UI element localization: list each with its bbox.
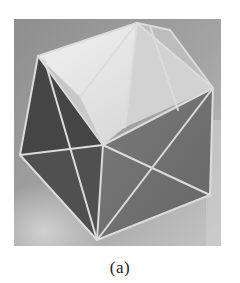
- figure: (a): [0, 0, 240, 283]
- figure-caption: (a): [0, 258, 240, 278]
- polyhedron-photo: [14, 19, 221, 246]
- polyhedron-illustration: [14, 19, 221, 246]
